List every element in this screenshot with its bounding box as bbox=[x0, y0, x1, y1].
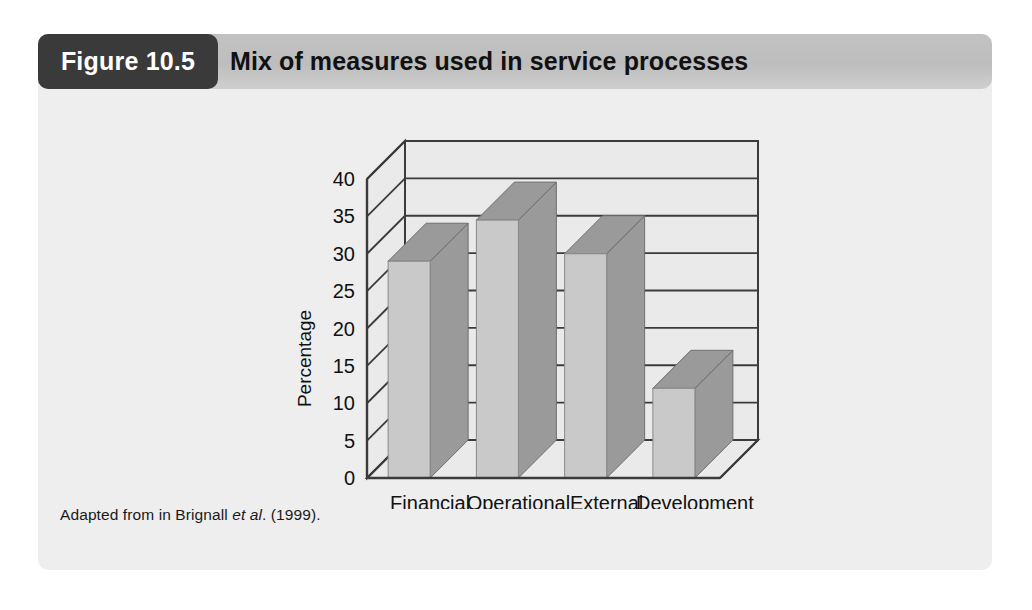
bar-financial bbox=[388, 223, 468, 478]
bar-operational bbox=[476, 182, 556, 478]
bar-front-face bbox=[476, 220, 518, 478]
caption-text-suffix: . (1999). bbox=[262, 506, 321, 523]
y-tick-label: 25 bbox=[333, 280, 355, 302]
bar-front-face bbox=[653, 388, 695, 478]
y-tick-label: 35 bbox=[333, 205, 355, 227]
figure-title: Mix of measures used in service processe… bbox=[230, 34, 748, 89]
y-tick-label: 5 bbox=[344, 430, 355, 452]
figure-number-badge: Figure 10.5 bbox=[38, 34, 218, 89]
figure-header-band: Figure 10.5 Mix of measures used in serv… bbox=[38, 34, 992, 89]
x-tick-label: External bbox=[570, 492, 643, 509]
figure-card: Figure 10.5 Mix of measures used in serv… bbox=[38, 34, 992, 570]
figure-caption: Adapted from in Brignall et al. (1999). bbox=[60, 506, 321, 524]
y-tick-label: 40 bbox=[333, 168, 355, 190]
bar-side-face bbox=[430, 223, 468, 478]
bar-side-face bbox=[518, 182, 556, 478]
bar-front-face bbox=[565, 254, 607, 478]
y-tick-label: 10 bbox=[333, 392, 355, 414]
x-tick-label: Operational bbox=[467, 492, 570, 509]
y-tick-label: 30 bbox=[333, 243, 355, 265]
bar-external bbox=[565, 216, 645, 478]
chart-plot-area: 0510152025303540PercentageFinancialOpera… bbox=[38, 89, 992, 509]
y-tick-label: 0 bbox=[344, 467, 355, 489]
caption-text-italic: et al bbox=[232, 506, 262, 523]
x-tick-label: Financial bbox=[390, 492, 470, 509]
y-tick-label: 15 bbox=[333, 355, 355, 377]
bar-chart-svg: 0510152025303540PercentageFinancialOpera… bbox=[38, 89, 992, 509]
bar-front-face bbox=[388, 261, 430, 478]
x-tick-label: Development bbox=[636, 492, 754, 509]
y-tick-label: 20 bbox=[333, 318, 355, 340]
caption-text-prefix: Adapted from in Brignall bbox=[60, 506, 232, 523]
y-axis-label: Percentage bbox=[294, 310, 315, 407]
bar-side-face bbox=[607, 216, 645, 478]
figure-number-label: Figure 10.5 bbox=[61, 47, 195, 76]
